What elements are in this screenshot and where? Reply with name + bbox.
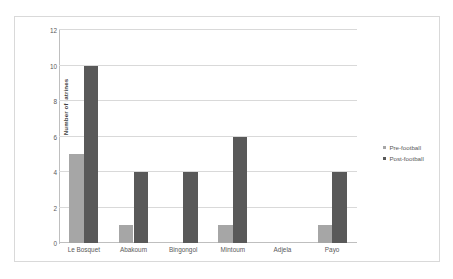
y-tick-label: 8	[31, 98, 57, 105]
bar	[134, 172, 148, 243]
bar	[318, 225, 332, 243]
legend-label: Post-football	[389, 155, 423, 162]
x-tick-label: Bingongol	[158, 246, 208, 253]
bar-group	[158, 30, 208, 243]
bar	[84, 66, 98, 244]
x-tick-label: Adjela	[258, 246, 308, 253]
y-tick-label: 4	[31, 169, 57, 176]
y-tick-label: 10	[31, 62, 57, 69]
y-tick-label: 6	[31, 133, 57, 140]
bar-group	[258, 30, 308, 243]
legend-swatch-icon	[383, 146, 386, 149]
legend-item[interactable]: Post-football	[383, 153, 443, 164]
bar-group	[109, 30, 159, 243]
chart-legend: Pre-footballPost-football	[383, 142, 443, 164]
bar	[119, 225, 133, 243]
bar-group	[307, 30, 357, 243]
x-tick-label: Mintoum	[208, 246, 258, 253]
x-axis-tick-labels: Le BosquetAbakoumBingongolMintoumAdjelaP…	[59, 246, 357, 260]
legend-label: Pre-football	[389, 144, 421, 151]
bar	[218, 225, 232, 243]
legend-swatch-icon	[383, 157, 386, 160]
x-tick-label: Abakoum	[109, 246, 159, 253]
y-tick-label: 12	[31, 27, 57, 34]
x-tick-label: Le Bosquet	[59, 246, 109, 253]
bar	[69, 154, 83, 243]
y-tick-label: 2	[31, 204, 57, 211]
bar-group	[208, 30, 258, 243]
bar	[183, 172, 197, 243]
legend-item[interactable]: Pre-football	[383, 142, 443, 153]
bar	[233, 137, 247, 244]
bar	[332, 172, 346, 243]
x-tick-label: Payo	[307, 246, 357, 253]
bar-group	[59, 30, 109, 243]
y-tick-label: 0	[31, 240, 57, 247]
y-axis-tick-labels: 024681012	[27, 30, 57, 243]
chart-container: Number of latrines 024681012 Le BosquetA…	[14, 16, 440, 262]
plot-area	[59, 30, 357, 243]
